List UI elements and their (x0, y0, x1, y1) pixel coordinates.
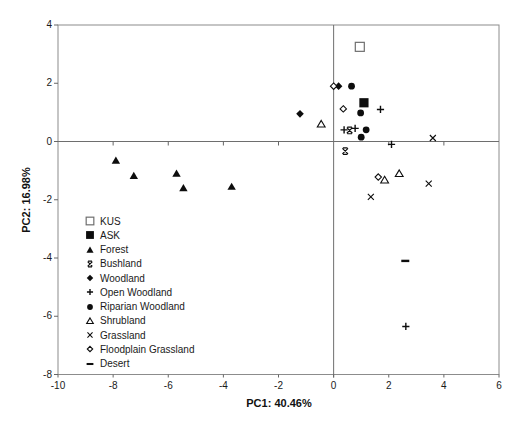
legend-item-desert: Desert (84, 357, 195, 371)
x-serif-icon (84, 258, 96, 270)
x-tick-label: 4 (429, 380, 459, 391)
marker-desert (401, 260, 409, 262)
marker-floodplain-grassland (375, 174, 381, 180)
marker-open-woodland (340, 126, 347, 133)
y-tick-label: -4 (20, 252, 52, 263)
legend-label: Forest (100, 244, 128, 255)
legend-item-riparian-woodland: Riparian Woodland (84, 300, 195, 314)
marker-woodland (296, 110, 304, 118)
chart-legend: KUSASKForestBushlandWoodlandOpen Woodlan… (84, 214, 195, 371)
plus-icon (84, 286, 96, 298)
marker-shrubland (317, 120, 325, 127)
square-open-icon (84, 215, 96, 227)
diamond-open-icon (84, 343, 96, 355)
series-kus (355, 42, 364, 51)
marker-riparian-woodland (363, 126, 370, 133)
legend-marker-floodplain-grassland (87, 347, 92, 352)
series-floodplain-grassland (330, 83, 381, 180)
marker-open-woodland (352, 125, 359, 132)
legend-label: Bushland (100, 258, 142, 269)
x-tick-label: -2 (264, 380, 294, 391)
series-open-woodland (340, 106, 409, 330)
diamond-filled-icon (84, 272, 96, 284)
legend-marker-woodland (87, 275, 93, 281)
marker-forest (227, 183, 235, 190)
y-tick-label: -2 (20, 194, 52, 205)
marker-riparian-woodland (357, 110, 364, 117)
marker-forest (130, 172, 138, 179)
legend-label: Desert (100, 358, 129, 369)
legend-item-floodplain-grassland: Floodplain Grassland (84, 342, 195, 356)
series-shrubland (317, 120, 403, 183)
legend-label: Floodplain Grassland (100, 344, 195, 355)
y-tick-label: -6 (20, 310, 52, 321)
marker-riparian-woodland (348, 83, 355, 90)
series-ask (359, 98, 368, 107)
legend-marker-shrubland (87, 318, 94, 324)
pca-scatter-figure: PC1: 40.46% PC2: 16.98% KUSASKForestBush… (0, 0, 520, 429)
legend-marker-desert (87, 363, 94, 365)
legend-item-woodland: Woodland (84, 271, 195, 285)
y-tick-label: -8 (20, 369, 52, 380)
legend-marker-forest (86, 246, 93, 252)
marker-grassland (368, 194, 374, 200)
triangle-open-icon (84, 315, 96, 327)
marker-riparian-woodland (358, 134, 365, 141)
marker-kus (355, 42, 364, 51)
marker-open-woodland (377, 106, 384, 113)
y-tick-label: 2 (20, 77, 52, 88)
x-tick-label: -8 (98, 380, 128, 391)
marker-bushland (342, 148, 348, 155)
legend-label: Grassland (100, 330, 146, 341)
marker-floodplain-grassland (340, 106, 346, 112)
legend-marker-kus (86, 217, 94, 225)
y-tick-label: 0 (20, 136, 52, 147)
legend-label: Open Woodland (100, 287, 172, 298)
legend-label: Woodland (100, 273, 145, 284)
legend-item-grassland: Grassland (84, 328, 195, 342)
x-tick-label: -10 (43, 380, 73, 391)
marker-floodplain-grassland (330, 83, 336, 89)
x-tick-label: 0 (319, 380, 349, 391)
scatter-plot-canvas (0, 0, 520, 429)
marker-ask (359, 98, 368, 107)
legend-item-shrubland: Shrubland (84, 314, 195, 328)
marker-shrubland (395, 170, 403, 177)
marker-forest (172, 170, 180, 177)
legend-label: ASK (100, 230, 120, 241)
legend-label: Shrubland (100, 315, 146, 326)
legend-item-forest: Forest (84, 243, 195, 257)
legend-item-bushland: Bushland (84, 257, 195, 271)
series-forest (112, 156, 236, 191)
x-axis-title: PC1: 40.46% (178, 397, 380, 409)
marker-grassland (430, 135, 436, 141)
x-tick-label: 6 (484, 380, 514, 391)
dash-icon (84, 358, 96, 370)
legend-marker-open-woodland (87, 289, 93, 295)
legend-item-ask: ASK (84, 228, 195, 242)
legend-label: KUS (100, 216, 121, 227)
x-tick-label: -4 (208, 380, 238, 391)
marker-open-woodland (402, 323, 409, 330)
legend-item-open-woodland: Open Woodland (84, 285, 195, 299)
square-filled-icon (84, 229, 96, 241)
legend-item-kus: KUS (84, 214, 195, 228)
legend-label: Riparian Woodland (100, 301, 185, 312)
circle-filled-icon (84, 301, 96, 313)
legend-marker-grassland (87, 333, 92, 338)
x-tick-label: -6 (153, 380, 183, 391)
series-desert (401, 260, 409, 262)
x-tick-label: 2 (374, 380, 404, 391)
y-tick-label: 4 (20, 19, 52, 30)
legend-marker-ask (86, 231, 94, 239)
x-thin-icon (84, 329, 96, 341)
series-grassland (368, 135, 436, 200)
legend-marker-riparian-woodland (87, 304, 93, 310)
legend-marker-bushland (88, 261, 93, 267)
triangle-filled-icon (84, 244, 96, 256)
marker-grassland (426, 181, 432, 187)
marker-forest (112, 156, 120, 163)
marker-forest (179, 184, 187, 191)
